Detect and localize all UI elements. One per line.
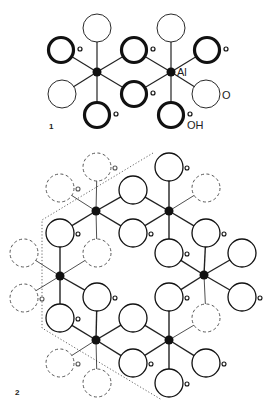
aluminum-atom [167, 68, 176, 77]
hydrogen-atom [222, 232, 226, 236]
oxygen-atom-below [83, 369, 111, 397]
bond [96, 181, 97, 211]
oxygen-atom [119, 219, 147, 247]
oxygen-atom [46, 219, 74, 247]
hydrogen-atom [114, 112, 118, 116]
hydrogen-atom [151, 47, 155, 51]
oxygen-atom [83, 14, 111, 42]
oxygen-atom [192, 349, 220, 377]
oxygen-atom [119, 349, 147, 377]
oxygen-atom [46, 304, 74, 332]
aluminum-atom [92, 336, 101, 345]
hydroxyl-atom [122, 82, 147, 107]
hydrogen-atom [40, 297, 44, 301]
oxygen-atom [119, 304, 147, 332]
hydroxyl-atom [195, 38, 220, 63]
oxygen-atom-below [10, 284, 38, 312]
hydroxyl-atom [49, 38, 74, 63]
oxygen-atom [228, 283, 256, 311]
figure-2-hexagonal-ring [10, 153, 262, 400]
oxygen-atom-below [192, 304, 220, 332]
hydrogen-atom [258, 296, 262, 300]
oxygen-atom [155, 369, 183, 397]
hydrogen-atom [149, 362, 153, 366]
oxygen-atom [192, 219, 220, 247]
figure-2-number: 2 [15, 388, 20, 397]
hydrogen-atom [185, 296, 189, 300]
oxygen-atom-below [83, 153, 111, 181]
oxygen-atom-below [46, 349, 74, 377]
oxygen-atom-below [192, 174, 220, 202]
oxygen-atom-below [46, 174, 74, 202]
hydrogen-atom [151, 91, 155, 95]
aluminum-atom [165, 336, 174, 345]
hydrogen-atom [188, 112, 192, 116]
aluminum-atom [165, 207, 174, 216]
oxygen-atom [228, 239, 256, 267]
oxygen-atom-below [83, 239, 111, 267]
oxygen-atom [119, 176, 147, 204]
aluminum-atom [92, 207, 101, 216]
hydrogen-atom [185, 382, 189, 386]
oxygen-atom-below [10, 239, 38, 267]
hydroxyl-atom [122, 38, 147, 63]
aluminum-atom [200, 271, 209, 280]
aluminum-atom [56, 272, 65, 281]
oxygen-label: O [222, 89, 231, 101]
hydrogen-atom [76, 317, 80, 321]
oxygen-atom [155, 283, 183, 311]
oxygen-atom [155, 239, 183, 267]
hydrogen-atom [185, 166, 189, 170]
hydroxyl-atom [85, 103, 110, 128]
hydroxyl-atom [159, 103, 184, 128]
hydrogen-atom [76, 362, 80, 366]
aluminum-label: Al [177, 66, 187, 78]
figure-1-number: 1 [49, 122, 54, 131]
hydrogen-atom [149, 232, 153, 236]
gibbsite-structure-diagram: Al O OH 1 2 [0, 0, 275, 415]
hydrogen-atom [113, 166, 117, 170]
hydrogen-atom [76, 187, 80, 191]
hydrogen-atom [185, 252, 189, 256]
oxygen-atom [192, 80, 220, 108]
hydrogen-atom [113, 296, 117, 300]
oxygen-atom [155, 153, 183, 181]
hydrogen-atom [76, 232, 80, 236]
oxygen-atom [157, 14, 185, 42]
oxygen-atom [48, 80, 76, 108]
hydroxyl-label: OH [187, 119, 204, 131]
figure-1-octahedral-layer [48, 14, 228, 128]
hydrogen-atom [222, 362, 226, 366]
hydrogen-atom [224, 47, 228, 51]
oxygen-atom [83, 283, 111, 311]
hydrogen-atom [78, 47, 82, 51]
aluminum-atom [93, 68, 102, 77]
